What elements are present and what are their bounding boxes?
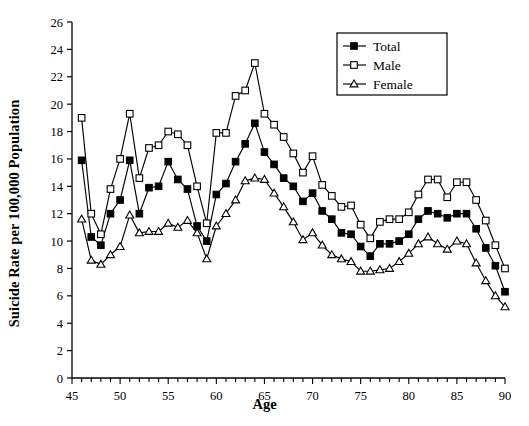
y-axis-tick-label: 12 xyxy=(51,207,64,221)
data-point-male xyxy=(271,121,278,128)
data-point-male xyxy=(117,156,124,163)
y-axis-tick-label: 4 xyxy=(57,317,64,331)
data-point-male xyxy=(300,169,307,176)
y-axis-tick-label: 26 xyxy=(51,16,64,30)
data-point-male xyxy=(415,191,422,198)
data-point-female xyxy=(414,240,422,247)
data-point-female xyxy=(251,174,259,181)
data-point-total xyxy=(126,157,133,164)
data-point-female xyxy=(299,236,307,243)
data-point-total xyxy=(444,215,451,222)
data-point-female xyxy=(280,203,288,210)
y-axis-tick-label: 24 xyxy=(51,43,64,57)
legend[interactable]: TotalMaleFemale xyxy=(337,33,447,95)
data-point-male xyxy=(98,231,105,238)
data-point-total xyxy=(78,157,85,164)
y-axis-tick-label: 2 xyxy=(57,344,63,358)
data-point-male xyxy=(502,265,509,272)
data-point-female xyxy=(232,196,240,203)
data-point-male xyxy=(203,220,210,227)
data-point-male xyxy=(252,60,259,67)
data-point-male xyxy=(136,175,143,182)
data-point-total xyxy=(425,208,432,215)
data-point-male xyxy=(213,130,220,137)
y-axis-tick-label: 6 xyxy=(57,289,63,303)
data-point-male xyxy=(482,217,489,224)
data-point-female xyxy=(289,218,297,225)
y-axis-tick-label: 10 xyxy=(51,235,64,249)
data-point-male xyxy=(175,131,182,138)
data-point-total xyxy=(482,245,489,252)
data-point-male xyxy=(357,221,364,228)
chart-container: Suicide Rate per 100,000 Population 0246… xyxy=(0,0,529,426)
data-point-male xyxy=(396,216,403,223)
data-point-total xyxy=(117,197,124,204)
data-point-total xyxy=(223,180,230,187)
data-point-male xyxy=(329,193,336,200)
series-line-total xyxy=(82,123,505,291)
data-point-total xyxy=(338,230,345,237)
x-axis-label-text: Age xyxy=(0,396,529,413)
data-point-male xyxy=(165,128,172,135)
data-point-female xyxy=(174,223,182,230)
legend-label-total[interactable]: Total xyxy=(373,39,401,54)
data-point-male xyxy=(184,142,191,149)
data-point-female xyxy=(453,237,461,244)
data-point-female xyxy=(203,255,211,262)
data-point-total xyxy=(232,158,239,165)
y-axis-tick-label: 16 xyxy=(51,152,64,166)
data-point-male xyxy=(280,134,287,141)
data-point-male xyxy=(444,194,451,201)
series-total xyxy=(78,120,508,295)
data-point-total xyxy=(502,288,509,295)
data-point-male xyxy=(386,216,393,223)
data-point-total xyxy=(242,141,249,148)
data-point-male xyxy=(107,186,114,193)
y-axis-tick-label: 14 xyxy=(51,180,64,194)
data-point-total xyxy=(136,210,143,217)
data-point-male xyxy=(473,197,480,204)
data-point-female xyxy=(491,292,499,299)
data-point-total xyxy=(290,183,297,190)
data-point-male xyxy=(126,110,133,117)
data-point-female xyxy=(482,277,490,284)
data-point-male xyxy=(348,202,355,209)
data-point-total xyxy=(165,158,172,165)
data-point-total xyxy=(88,234,95,241)
data-point-total xyxy=(454,210,461,217)
data-point-male xyxy=(223,130,230,137)
data-point-male xyxy=(146,145,153,152)
data-point-total xyxy=(146,184,153,191)
data-point-total xyxy=(271,161,278,168)
data-point-male xyxy=(309,153,316,160)
data-point-total xyxy=(473,225,480,232)
data-point-male xyxy=(194,183,201,190)
data-point-total xyxy=(213,191,220,198)
data-point-female xyxy=(309,229,317,236)
data-point-total xyxy=(415,216,422,223)
data-point-female xyxy=(434,240,442,247)
legend-label-male[interactable]: Male xyxy=(373,58,401,73)
data-point-total xyxy=(98,242,105,249)
legend-label-female[interactable]: Female xyxy=(373,77,413,92)
data-point-female xyxy=(87,256,95,263)
data-point-total xyxy=(155,183,162,190)
data-point-total xyxy=(300,198,307,205)
y-axis-tick-label: 18 xyxy=(51,125,64,139)
data-point-female xyxy=(222,210,230,217)
data-point-male xyxy=(454,179,461,186)
data-point-total xyxy=(319,208,326,215)
data-point-total xyxy=(367,253,374,260)
data-point-male xyxy=(261,110,268,117)
data-point-male xyxy=(434,176,441,183)
data-point-male xyxy=(88,210,95,217)
legend-marker-male xyxy=(351,62,358,69)
data-point-female xyxy=(424,233,432,240)
data-point-total xyxy=(434,210,441,217)
data-point-male xyxy=(425,176,432,183)
data-point-male xyxy=(242,87,249,94)
data-point-male xyxy=(319,182,326,189)
data-point-male xyxy=(492,242,499,249)
data-point-male xyxy=(232,93,239,100)
data-point-total xyxy=(386,241,393,248)
